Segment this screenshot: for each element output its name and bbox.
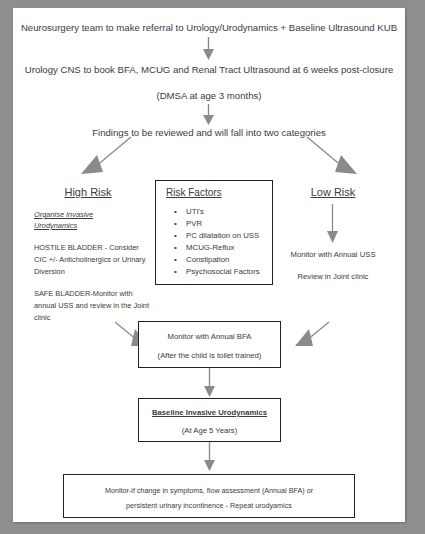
- risk-factor-item: PVR: [172, 219, 260, 228]
- low-risk-line-1: Monitor with Annual USS: [285, 250, 381, 260]
- arrow-down-step2-to-step3: [202, 104, 215, 126]
- risk-factors-box: Risk Factors UTI's PVR PC dilatation on …: [155, 180, 273, 285]
- flow-step-2-text: Urology CNS to book BFA, MCUG and Renal …: [13, 64, 405, 76]
- document-page: Neurosurgery team to make referral to Ur…: [13, 8, 405, 522]
- high-risk-subheading: Organise Invasive Urodynamics: [34, 210, 120, 231]
- flow-step-2-note: (DMSA at age 3 months): [13, 90, 405, 102]
- risk-factor-item: Psychosocial Factors: [172, 267, 260, 276]
- baseline-invasive-urodynamics-box: Baseline Invasive Urodynamics (At Age 5 …: [138, 398, 281, 442]
- monitor-annual-bfa-box: Monitor with Annual BFA (After the child…: [138, 321, 281, 368]
- arrow-diagonal-to-low-risk: [301, 133, 373, 181]
- urodynamics-line-1: Baseline Invasive Urodynamics: [139, 408, 280, 417]
- risk-factor-item: Constipation: [172, 255, 260, 264]
- urodynamics-line-2: (At Age 5 Years): [139, 426, 280, 435]
- risk-factor-item: MCUG-Reflux: [172, 243, 260, 252]
- arrow-down-step1-to-step2: [202, 37, 215, 61]
- arrow-down-bfa-to-urodynamics: [203, 368, 216, 398]
- high-risk-heading: High Risk: [40, 186, 136, 200]
- final-box-line-1: Monitor-if change in symptoms, flow asse…: [64, 486, 354, 495]
- high-risk-paragraph-1: HOSTILE BLADDER - Consider CIC +/- Antic…: [34, 242, 152, 278]
- low-risk-line-2: Review in Joint clinic: [285, 272, 381, 282]
- flow-step-1-text: Neurosurgery team to make referral to Ur…: [13, 22, 405, 34]
- arrow-diagonal-low-risk-to-monitor-bfa: [291, 320, 331, 354]
- risk-factor-item: UTI's: [172, 207, 260, 216]
- final-monitoring-box: Monitor-if change in symptoms, flow asse…: [63, 474, 355, 518]
- final-box-line-2: persistent urinary incontinence - Repeat…: [64, 501, 354, 510]
- high-risk-paragraph-2: SAFE BLADDER-Monitor with annual USS and…: [34, 288, 152, 324]
- risk-factors-heading: Risk Factors: [166, 187, 222, 200]
- risk-factor-item: PC dilatation on USS: [172, 231, 260, 240]
- low-risk-heading: Low Risk: [285, 186, 381, 200]
- monitor-bfa-line-1: Monitor with Annual BFA: [139, 332, 280, 341]
- arrow-down-urodynamics-to-final: [203, 442, 216, 472]
- arrow-down-low-risk: [326, 204, 339, 244]
- risk-factors-list: UTI's PVR PC dilatation on USS MCUG-Refl…: [172, 207, 260, 280]
- monitor-bfa-line-2: (After the child is toilet trained): [139, 351, 280, 360]
- arrow-diagonal-to-high-risk: [65, 133, 137, 181]
